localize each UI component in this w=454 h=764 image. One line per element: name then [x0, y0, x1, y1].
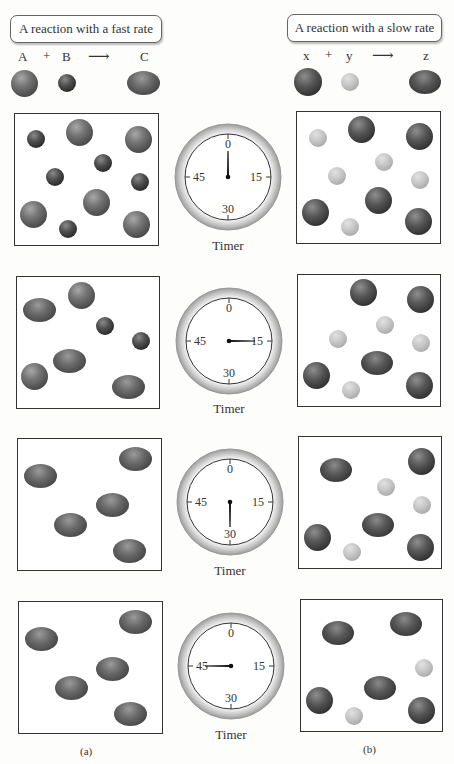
molecule-a [20, 201, 47, 228]
molecule-y-icon [341, 73, 359, 91]
molecule-a [66, 119, 93, 146]
timer-label: Timer [200, 563, 260, 579]
molecule-x [407, 534, 434, 561]
molecule-b [94, 154, 112, 172]
molecule-z [322, 621, 354, 645]
molecule-x [350, 279, 377, 306]
molecule-y [343, 543, 361, 561]
molecule-c [113, 539, 146, 563]
molecule-y [341, 218, 359, 236]
plus-sign: + [325, 47, 332, 63]
caption-a: (a) [80, 745, 92, 757]
slow-panel-t45 [300, 599, 443, 732]
molecule-a [21, 363, 48, 390]
molecule-x [302, 199, 329, 226]
molecule-b [131, 173, 149, 191]
molecule-y [328, 167, 346, 185]
molecule-y [415, 659, 433, 677]
molecule-x [306, 687, 333, 714]
molecule-a [68, 282, 95, 309]
fast-panel-t45 [18, 601, 163, 734]
molecule-x [407, 286, 434, 313]
molecule-c [119, 447, 152, 471]
molecule-z [390, 612, 422, 636]
molecule-x [408, 448, 435, 475]
slow-rate-title: A reaction with a slow rate [287, 14, 442, 42]
molecule-z [362, 513, 394, 537]
molecule-a [123, 211, 150, 238]
molecule-x [303, 362, 330, 389]
svg-text:15: 15 [253, 659, 265, 673]
molecule-c [96, 657, 129, 681]
product-z-label: z [423, 48, 429, 64]
reactant-b-label: B [62, 49, 71, 65]
molecule-z [320, 458, 352, 482]
caption-b: (b) [363, 743, 376, 755]
svg-text:15: 15 [252, 495, 264, 509]
molecule-c [55, 676, 88, 700]
reactant-x-label: x [303, 48, 310, 64]
molecule-x [408, 697, 435, 724]
molecule-x [348, 116, 375, 143]
timer-clock-icon: 0 15 30 45 [177, 612, 285, 720]
molecule-y [413, 496, 431, 514]
molecule-c [119, 610, 152, 634]
svg-text:15: 15 [250, 170, 262, 184]
molecule-y [309, 129, 327, 147]
timer-clock-icon: 0 15 30 45 [175, 287, 283, 395]
molecule-y [377, 478, 395, 496]
timer-label: Timer [201, 727, 261, 743]
molecule-x [405, 208, 432, 235]
molecule-a-icon [11, 70, 38, 97]
molecule-b [59, 220, 77, 238]
svg-text:45: 45 [193, 170, 205, 184]
molecule-c-icon [127, 71, 160, 95]
svg-text:0: 0 [226, 301, 232, 315]
plus-sign: + [43, 48, 50, 64]
fast-panel-t0 [14, 113, 159, 246]
molecule-a [83, 189, 110, 216]
molecule-x [365, 187, 392, 214]
svg-text:45: 45 [195, 495, 207, 509]
svg-text:0: 0 [227, 462, 233, 476]
molecule-a [125, 126, 152, 153]
svg-text:30: 30 [224, 527, 236, 541]
reactant-y-label: y [346, 48, 353, 64]
molecule-c [54, 513, 87, 537]
molecule-y [342, 381, 360, 399]
timer-label: Timer [199, 401, 259, 417]
svg-text:30: 30 [222, 202, 234, 216]
molecule-c [25, 627, 58, 651]
molecule-x-icon [294, 68, 322, 96]
molecule-z [361, 351, 393, 375]
molecule-x [406, 372, 433, 399]
fast-panel-t15 [16, 276, 160, 409]
product-c-label: C [140, 49, 149, 65]
molecule-y [329, 330, 347, 348]
molecule-c [112, 375, 145, 399]
molecule-x [304, 524, 331, 551]
slow-panel-t30 [298, 436, 442, 569]
timer-clock-icon: 0 15 30 45 [174, 123, 282, 231]
molecule-y [376, 316, 394, 334]
reactant-a-label: A [18, 49, 27, 65]
molecule-y [411, 171, 429, 189]
molecule-y [412, 334, 430, 352]
molecule-c [53, 349, 86, 373]
molecule-y [375, 153, 393, 171]
reaction-arrow: ⟶ [372, 46, 394, 64]
molecule-x [406, 123, 433, 150]
molecule-b [46, 168, 64, 186]
molecule-b-icon [58, 74, 76, 92]
slow-panel-t15 [297, 274, 441, 407]
timer-clock-icon: 0 15 30 45 [176, 448, 284, 556]
svg-text:30: 30 [225, 691, 237, 705]
slow-panel-t0 [296, 111, 441, 244]
molecule-z-icon [409, 70, 441, 94]
molecule-z [364, 676, 396, 700]
svg-text:0: 0 [228, 626, 234, 640]
molecule-c [23, 298, 56, 322]
molecule-b [27, 130, 45, 148]
molecule-y [345, 707, 363, 725]
reaction-arrow: ⟶ [88, 47, 110, 65]
